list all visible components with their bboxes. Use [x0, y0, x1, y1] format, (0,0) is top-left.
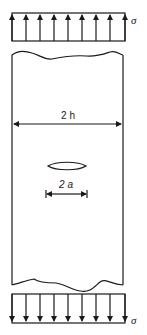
plate-bottom-break-line [12, 279, 123, 291]
plate-body [12, 51, 123, 291]
crack-length-dimension: 2 a [46, 179, 87, 198]
plate-top-break-line [12, 51, 123, 59]
width-dimension: 2 h [14, 110, 121, 124]
top-stress-block [12, 13, 125, 41]
bottom-stress-block [12, 294, 125, 323]
width-label: 2 h [61, 110, 75, 121]
center-crack [48, 162, 86, 170]
top-stress-arrows [12, 15, 125, 41]
crack-length-label: 2 a [58, 179, 73, 190]
bottom-sigma-label: σ [131, 314, 137, 326]
bottom-stress-arrows [12, 294, 125, 321]
top-sigma-label: σ [131, 14, 137, 26]
cracked-plate-diagram: σ 2 h 2 a [0, 0, 147, 335]
